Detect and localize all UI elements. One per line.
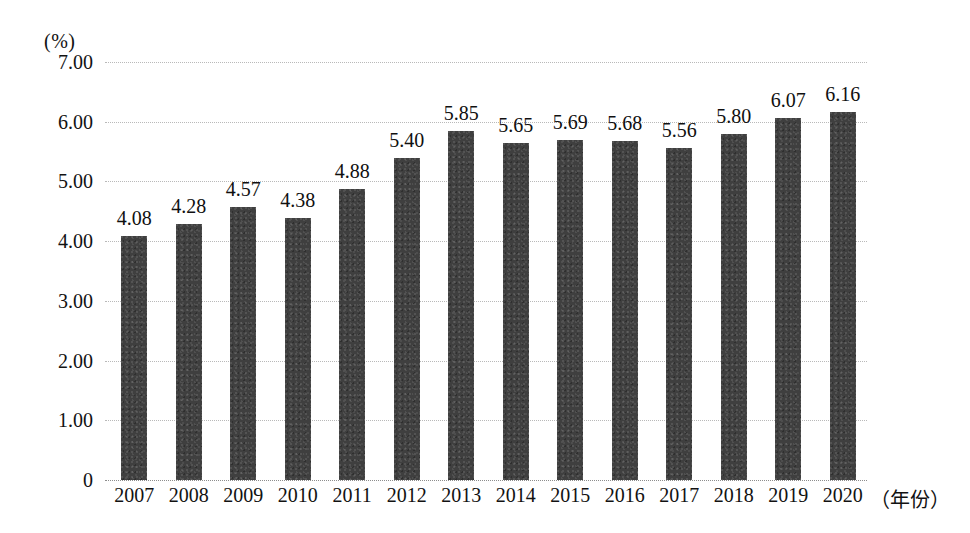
- x-axis-tick-label: 2014: [489, 484, 544, 507]
- bar-value-label: 5.69: [553, 111, 588, 134]
- bar[interactable]: [448, 131, 474, 480]
- bar[interactable]: [557, 140, 583, 480]
- bar[interactable]: [612, 141, 638, 480]
- x-axis-tick-label: 2009: [216, 484, 271, 507]
- bar-value-label: 5.56: [662, 119, 697, 142]
- y-axis-tick-label: 3.00: [58, 289, 93, 312]
- x-axis-tick-label: 2012: [380, 484, 435, 507]
- bar-value-label: 5.80: [716, 105, 751, 128]
- bar-value-label: 5.65: [498, 114, 533, 137]
- bar-value-label: 4.38: [280, 189, 315, 212]
- axis-baseline: [105, 480, 867, 481]
- x-axis-tick-label: 2020: [816, 484, 871, 507]
- y-axis-tick-label: 4.00: [58, 230, 93, 253]
- bar[interactable]: [503, 143, 529, 480]
- y-axis-tick-label: 2.00: [58, 349, 93, 372]
- bar-value-label: 5.85: [444, 102, 479, 125]
- x-axis-tick-label: 2019: [761, 484, 816, 507]
- x-axis-tick-label: 2008: [162, 484, 217, 507]
- bars-group: 4.084.284.574.384.885.405.855.655.695.68…: [105, 62, 867, 480]
- x-axis-tick-label: 2007: [107, 484, 162, 507]
- bar-value-label: 6.07: [771, 89, 806, 112]
- bar[interactable]: [830, 112, 856, 480]
- x-axis-tick-label: 2017: [652, 484, 707, 507]
- y-axis-tick-label: 5.00: [58, 170, 93, 193]
- bar-value-label: 5.40: [389, 129, 424, 152]
- bar[interactable]: [285, 218, 311, 480]
- x-axis-tick-label: 2016: [598, 484, 653, 507]
- bar-value-label: 4.28: [171, 195, 206, 218]
- y-axis-tick-label: 7.00: [58, 51, 93, 74]
- x-axis-tick-label: 2011: [325, 484, 380, 507]
- x-axis-tick-label: 2018: [707, 484, 762, 507]
- plot-area: 7.006.005.004.003.002.001.000 4.084.284.…: [105, 62, 867, 480]
- bar-value-label: 4.57: [226, 178, 261, 201]
- bar-value-label: 5.68: [607, 112, 642, 135]
- bar-value-label: 6.16: [825, 83, 860, 106]
- y-axis-tick-label: 6.00: [58, 110, 93, 133]
- x-axis-title: （年份）: [870, 484, 950, 513]
- x-axis-tick-label: 2015: [543, 484, 598, 507]
- bar-value-label: 4.88: [335, 160, 370, 183]
- bar[interactable]: [230, 207, 256, 480]
- x-axis-tick-labels: （年份） 20072008200920102011201220132014201…: [105, 484, 867, 518]
- y-axis-tick-label: 0: [83, 469, 93, 492]
- bar[interactable]: [394, 158, 420, 480]
- bar[interactable]: [176, 224, 202, 480]
- bar-value-label: 4.08: [117, 207, 152, 230]
- bar[interactable]: [339, 189, 365, 480]
- x-axis-tick-label: 2010: [271, 484, 326, 507]
- bar[interactable]: [775, 118, 801, 480]
- bar[interactable]: [721, 134, 747, 480]
- x-axis-tick-label: 2013: [434, 484, 489, 507]
- bar[interactable]: [666, 148, 692, 480]
- y-axis-tick-label: 1.00: [58, 409, 93, 432]
- chart-page: (%) 7.006.005.004.003.002.001.000 4.084.…: [0, 0, 970, 533]
- bar[interactable]: [121, 236, 147, 480]
